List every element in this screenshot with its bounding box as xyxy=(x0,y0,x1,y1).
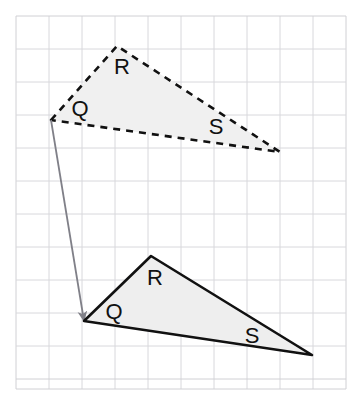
geometry-figure: R Q S R Q S xyxy=(0,0,364,409)
figure-background xyxy=(0,0,364,409)
preimage-vertex-label-s: S xyxy=(209,114,224,139)
preimage-vertex-label-q: Q xyxy=(71,96,88,121)
preimage-vertex-label-r: R xyxy=(114,54,130,79)
image-vertex-label-s: S xyxy=(245,323,260,348)
image-vertex-label-r: R xyxy=(147,265,163,290)
figure-canvas: R Q S R Q S xyxy=(0,0,364,409)
image-vertex-label-q: Q xyxy=(105,299,122,324)
